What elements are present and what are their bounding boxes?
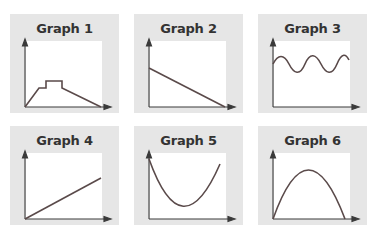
- upward-parabola-graph: [134, 126, 243, 225]
- curve: [273, 170, 345, 219]
- sinusoidal-wave-graph: [258, 14, 367, 113]
- x-axis: [149, 217, 235, 222]
- x-axis: [273, 105, 359, 110]
- x-axis: [25, 217, 111, 222]
- y-axis: [147, 39, 152, 107]
- curve: [25, 81, 101, 107]
- graph-panel-2: Graph 2: [134, 14, 243, 113]
- x-axis: [273, 217, 359, 222]
- curve: [273, 55, 349, 72]
- decreasing-linear-graph: [134, 14, 243, 113]
- y-axis: [271, 39, 276, 107]
- downward-parabola-graph: [258, 126, 367, 225]
- curve: [25, 178, 101, 219]
- curve: [149, 68, 225, 107]
- graph-panel-3: Graph 3: [258, 14, 367, 113]
- y-axis: [271, 151, 276, 219]
- increasing-linear-graph: [10, 126, 119, 225]
- graph-panel-1: Graph 1: [10, 14, 119, 113]
- step-trapezoid-graph: [10, 14, 119, 113]
- graph-panel-5: Graph 5: [134, 126, 243, 225]
- curve: [149, 159, 220, 206]
- graph-panel-4: Graph 4: [10, 126, 119, 225]
- y-axis: [23, 151, 28, 219]
- y-axis: [23, 39, 28, 107]
- graph-panel-6: Graph 6: [258, 126, 367, 225]
